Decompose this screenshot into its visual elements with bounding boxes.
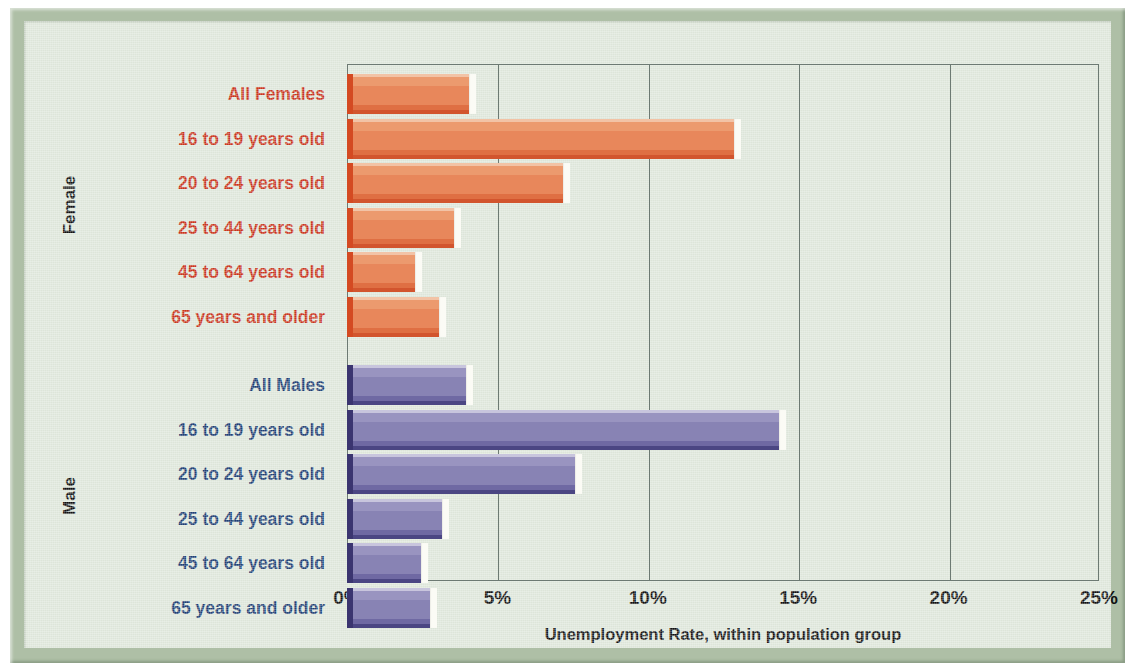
bar-end-cap — [563, 163, 570, 203]
bar-face — [347, 588, 430, 628]
bar-face — [347, 208, 454, 248]
bar-row — [347, 543, 1099, 583]
bar-end-cap — [734, 119, 741, 159]
category-label-text: 45 to 64 years old — [24, 252, 335, 292]
bar-female-4[interactable] — [347, 252, 422, 292]
bar-end-cap — [469, 74, 476, 114]
bar-face — [347, 119, 734, 159]
bar-end-cap — [779, 410, 786, 450]
bar-male-5[interactable] — [347, 588, 437, 628]
bar-end-cap — [575, 454, 582, 494]
bar-face — [347, 543, 421, 583]
bar-face — [347, 252, 415, 292]
bar-end-cap — [439, 297, 446, 337]
bar-female-5[interactable] — [347, 297, 446, 337]
category-label-text: 16 to 19 years old — [24, 119, 335, 159]
bar-row — [347, 252, 1099, 292]
x-axis-title: Unemployment Rate, within population gro… — [347, 625, 1099, 644]
bar-male-2[interactable] — [347, 454, 582, 494]
bar-end-cap — [421, 543, 428, 583]
bar-end-cap — [466, 365, 473, 405]
bar-row — [347, 297, 1099, 337]
category-label-female-0: All Females — [24, 74, 335, 114]
bar-face — [347, 163, 563, 203]
category-label-female-4: 45 to 64 years old — [24, 252, 335, 292]
category-label-female-1: 16 to 19 years old — [24, 119, 335, 159]
group-label-female: Female — [60, 175, 80, 235]
bar-female-1[interactable] — [347, 119, 741, 159]
category-label-male-5: 65 years and older — [24, 588, 335, 628]
bar-row — [347, 454, 1099, 494]
bar-end-cap — [415, 252, 422, 292]
category-label-male-4: 45 to 64 years old — [24, 543, 335, 583]
bar-row — [347, 74, 1099, 114]
bar-end-cap — [430, 588, 437, 628]
bar-row — [347, 163, 1099, 203]
bar-row — [347, 208, 1099, 248]
bar-face — [347, 74, 469, 114]
bar-end-cap — [454, 208, 461, 248]
category-label-text: All Females — [24, 74, 335, 114]
bar-face — [347, 297, 439, 337]
bar-row — [347, 119, 1099, 159]
bars-layer — [347, 64, 1099, 581]
bar-female-0[interactable] — [347, 74, 476, 114]
bar-face — [347, 410, 779, 450]
bar-face — [347, 365, 466, 405]
bar-end-cap — [442, 499, 449, 539]
bar-male-0[interactable] — [347, 365, 473, 405]
category-label-text: 16 to 19 years old — [24, 410, 335, 450]
bar-male-4[interactable] — [347, 543, 428, 583]
category-label-text: 65 years and older — [24, 588, 335, 628]
group-label-male: Male — [60, 466, 80, 526]
bar-female-2[interactable] — [347, 163, 570, 203]
bar-male-1[interactable] — [347, 410, 786, 450]
bar-female-3[interactable] — [347, 208, 461, 248]
category-label-text: 65 years and older — [24, 297, 335, 337]
bar-row — [347, 588, 1099, 628]
bar-face — [347, 499, 442, 539]
bar-row — [347, 410, 1099, 450]
chart-frame: All Females16 to 19 years old20 to 24 ye… — [10, 8, 1125, 663]
category-label-male-1: 16 to 19 years old — [24, 410, 335, 450]
category-label-male-0: All Males — [24, 365, 335, 405]
bar-row — [347, 499, 1099, 539]
category-label-text: 45 to 64 years old — [24, 543, 335, 583]
category-label-text: All Males — [24, 365, 335, 405]
bar-row — [347, 365, 1099, 405]
chart-panel: All Females16 to 19 years old20 to 24 ye… — [24, 21, 1111, 648]
category-label-female-5: 65 years and older — [24, 297, 335, 337]
bar-face — [347, 454, 575, 494]
bar-male-3[interactable] — [347, 499, 449, 539]
